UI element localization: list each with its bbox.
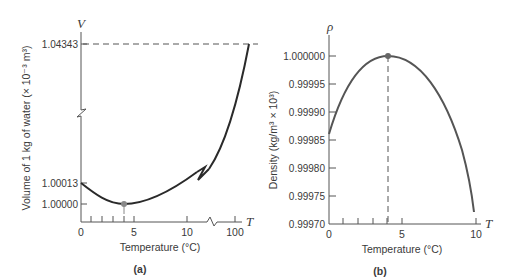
xtick-a-5: 5 (131, 226, 137, 238)
panel-label-b: (b) (373, 265, 386, 277)
ytick-a-3: 1.00000 (42, 199, 79, 210)
xtick-b-5: 5 (399, 228, 405, 240)
x-ticks-b (343, 218, 476, 224)
y-ticks-a (81, 44, 87, 204)
figure: V 1.04343 1.00013 1.00000 0 5 10 100 T T… (0, 0, 516, 277)
xlabel-b: Temperature (°C) (362, 243, 443, 255)
ytick-a-1: 1.04343 (42, 39, 79, 50)
x-symbol-b: T (485, 216, 493, 231)
volume-curve-lower (81, 172, 197, 204)
maximum-point (385, 53, 391, 59)
xtick-a-10: 10 (181, 226, 193, 238)
chart-b: ρ 1.000000 0.99995 0.99990 0.99985 0.999… (267, 19, 493, 277)
ytick-b-5: 0.99980 (289, 163, 326, 174)
xtick-b-10: 10 (470, 228, 482, 240)
y-axis-break-a (77, 109, 86, 117)
xtick-a-100: 100 (226, 226, 244, 238)
y-symbol-a: V (77, 16, 87, 31)
xlabel-a: Temperature (°C) (120, 241, 201, 253)
ytick-b-7: 0.99970 (289, 219, 326, 230)
ytick-b-1: 1.000000 (283, 51, 325, 62)
x-symbol-a: T (246, 214, 254, 229)
ylabel-a: Volume of 1 kg of water (× 10⁻³ m³) (20, 45, 32, 210)
density-curve (329, 56, 474, 212)
ytick-b-6: 0.99975 (289, 191, 326, 202)
ylabel-b: Density (kg/m³ × 10³) (267, 91, 279, 189)
ytick-b-2: 0.99995 (289, 79, 326, 90)
x-ticks-a (91, 216, 235, 222)
volume-curve-upper (209, 44, 249, 169)
y-symbol-b: ρ (326, 19, 333, 34)
ytick-b-4: 0.99985 (289, 135, 326, 146)
xtick-b-0: 0 (326, 228, 332, 240)
ytick-b-3: 0.99990 (289, 107, 326, 118)
chart-a: V 1.04343 1.00013 1.00000 0 5 10 100 T T… (20, 16, 258, 275)
xtick-a-0: 0 (78, 226, 84, 238)
ytick-a-2: 1.00013 (42, 178, 79, 189)
curve-break-a (197, 167, 209, 180)
panel-label-a: (a) (134, 263, 147, 275)
x-axis-break-a (207, 217, 217, 226)
